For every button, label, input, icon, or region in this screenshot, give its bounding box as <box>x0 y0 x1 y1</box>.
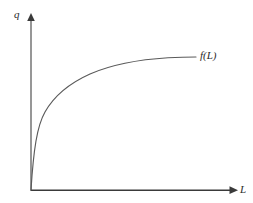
x-axis-label: L <box>240 184 246 195</box>
production-function-curve <box>31 57 196 190</box>
production-function-figure: q L f(L) <box>0 0 253 203</box>
figure-canvas <box>0 0 253 203</box>
x-axis-arrow-icon <box>230 186 239 194</box>
y-axis-label: q <box>14 9 20 20</box>
y-axis-arrow-icon <box>27 13 35 21</box>
curve-label: f(L) <box>200 50 217 61</box>
